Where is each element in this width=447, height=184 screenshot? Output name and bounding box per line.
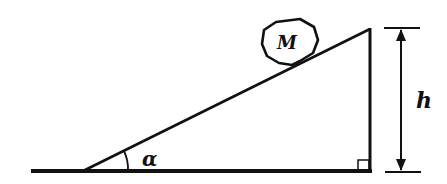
- mass-label: M: [276, 32, 298, 53]
- angle-label: α: [142, 147, 157, 171]
- right-angle-marker: [358, 160, 369, 170]
- incline-surface: [83, 29, 370, 171]
- angle-arc: [124, 151, 128, 171]
- incline-diagram: α M h: [0, 0, 447, 184]
- arrow-down-icon: [396, 159, 406, 171]
- arrow-up-icon: [396, 29, 406, 41]
- height-label: h: [416, 87, 432, 113]
- diagram-canvas: α M h: [0, 0, 447, 184]
